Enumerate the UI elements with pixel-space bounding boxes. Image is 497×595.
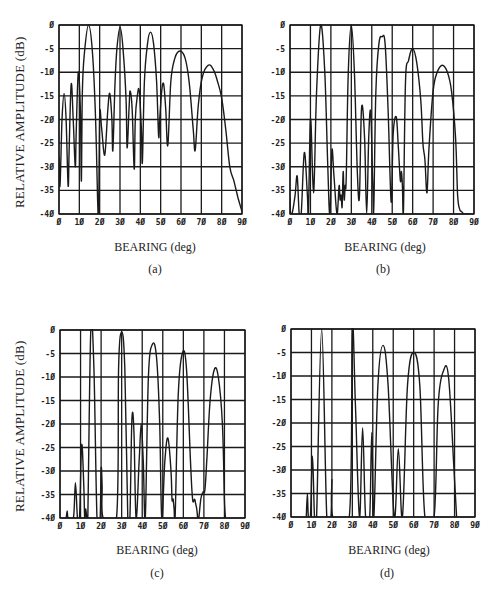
plot-a: Ø1Ø2Ø3Ø4Ø5Ø6Ø7Ø8Ø9ØØ-5-1Ø-15-2Ø-25-3Ø-35… — [29, 21, 250, 234]
x-tick-label: 7Ø — [197, 217, 207, 227]
x-tick-label: 1Ø — [307, 520, 317, 530]
y-tick-label: -3Ø — [271, 162, 286, 172]
y-tick-label: -15 — [41, 397, 56, 406]
plot-b: Ø1Ø2Ø3Ø4Ø5Ø6Ø7Ø8Ø9ØØ-5-1Ø-15-2Ø-25-3Ø-35… — [260, 21, 482, 234]
y-tick-label: -2Ø — [41, 419, 56, 429]
x-tick-label: Ø — [288, 520, 294, 530]
x-tick-label: 2Ø — [95, 217, 105, 227]
x-tick-label: 6Ø — [176, 217, 186, 227]
x-tick-label: 7Ø — [199, 521, 209, 531]
x-tick-label: 3Ø — [347, 217, 357, 227]
y-tick-label: -25 — [40, 139, 55, 148]
x-tick-label: 9Ø — [470, 520, 480, 530]
x-tick-label: 7Ø — [429, 520, 439, 530]
y-tick-label: -15 — [272, 396, 287, 405]
y-tick-label: -25 — [41, 444, 56, 453]
x-tick-label: 1Ø — [76, 521, 86, 531]
y-tick-label: Ø — [48, 20, 54, 30]
y-axis-label: RELATIVE AMPLITUDE (dB) — [12, 332, 28, 512]
x-tick-label: 2Ø — [96, 521, 106, 531]
y-tick-label: -4Ø — [272, 512, 287, 522]
y-tick-label: -4Ø — [271, 209, 286, 219]
x-tick-label: 4Ø — [136, 217, 146, 227]
y-tick-label: -3Ø — [40, 162, 55, 172]
x-tick-label: 1Ø — [75, 217, 85, 227]
x-tick-label: 4Ø — [367, 217, 377, 227]
x-tick-label: 5Ø — [156, 217, 166, 227]
x-tick-label: 3Ø — [348, 520, 358, 530]
x-tick-label: 3Ø — [115, 217, 125, 227]
y-tick-label: -15 — [40, 92, 55, 101]
y-tick-label: Ø — [279, 20, 285, 30]
y-tick-label: -35 — [272, 490, 287, 499]
y-axis-label: RELATIVE AMPLITUDE (dB) — [12, 28, 28, 208]
y-tick-label: -5 — [275, 45, 285, 54]
x-tick-label: 8Ø — [450, 520, 460, 530]
y-tick-label: -35 — [271, 186, 286, 195]
y-tick-label: -4Ø — [41, 513, 56, 523]
y-tick-label: -15 — [271, 92, 286, 101]
y-tick-label: -35 — [41, 491, 56, 500]
plot-d: Ø1Ø2Ø3Ø4Ø5Ø6Ø7Ø8Ø9ØØ-5-1Ø-15-2Ø-25-3Ø-35… — [261, 325, 483, 537]
y-tick-label: -3Ø — [41, 466, 56, 476]
y-tick-label: -5 — [45, 350, 55, 359]
y-tick-label: -2Ø — [40, 115, 55, 125]
x-tick-label: Ø — [56, 217, 62, 227]
x-axis-label: BEARING (deg) — [334, 543, 444, 558]
x-tick-label: 8Ø — [220, 521, 230, 531]
response-curve — [290, 25, 470, 221]
x-tick-label: 4Ø — [368, 520, 378, 530]
caption-d: (d) — [372, 566, 402, 581]
y-tick-label: -5 — [44, 45, 54, 54]
y-tick-label: -1Ø — [272, 371, 287, 381]
plot-c: Ø1Ø2Ø3Ø4Ø5Ø6Ø7Ø8Ø9ØØ-5-1Ø-15-2Ø-25-3Ø-35… — [30, 326, 253, 538]
response-curve — [66, 320, 225, 535]
x-tick-label: 5Ø — [388, 520, 398, 530]
x-tick-label: 8Ø — [449, 217, 459, 227]
x-axis-label: BEARING (deg) — [100, 240, 210, 255]
response-curve — [59, 25, 242, 221]
y-tick-label: -3Ø — [272, 465, 287, 475]
x-axis-label: BEARING (deg) — [330, 240, 440, 255]
caption-b: (b) — [368, 262, 398, 277]
x-tick-label: 3Ø — [117, 521, 127, 531]
y-tick-label: -5 — [276, 349, 286, 358]
y-tick-label: -25 — [272, 443, 287, 452]
x-tick-label: 6Ø — [408, 217, 418, 227]
x-tick-label: 1Ø — [306, 217, 316, 227]
x-tick-label: 7Ø — [428, 217, 438, 227]
x-tick-label: 2Ø — [327, 520, 337, 530]
y-tick-label: -4Ø — [40, 209, 55, 219]
x-tick-label: 9Ø — [237, 217, 247, 227]
x-tick-label: 5Ø — [158, 521, 168, 531]
y-tick-label: -2Ø — [272, 418, 287, 428]
x-axis-label: BEARING (deg) — [102, 543, 212, 558]
x-tick-label: 2Ø — [326, 217, 336, 227]
x-tick-label: 6Ø — [179, 521, 189, 531]
y-tick-label: -35 — [40, 186, 55, 195]
x-tick-label: 6Ø — [409, 520, 419, 530]
y-tick-label: Ø — [49, 325, 55, 335]
x-tick-label: 8Ø — [217, 217, 227, 227]
caption-a: (a) — [140, 262, 170, 277]
caption-c: (c) — [142, 566, 172, 581]
x-tick-label: Ø — [287, 217, 293, 227]
y-tick-label: -1Ø — [40, 67, 55, 77]
x-tick-label: 9Ø — [469, 217, 479, 227]
x-tick-label: Ø — [57, 521, 63, 531]
x-tick-label: 9Ø — [240, 521, 250, 531]
y-tick-label: Ø — [280, 324, 286, 334]
y-tick-label: -1Ø — [41, 372, 56, 382]
x-tick-label: 4Ø — [137, 521, 147, 531]
y-tick-label: -2Ø — [271, 115, 286, 125]
x-tick-label: 5Ø — [387, 217, 397, 227]
y-tick-label: -25 — [271, 139, 286, 148]
y-tick-label: -1Ø — [271, 67, 286, 77]
